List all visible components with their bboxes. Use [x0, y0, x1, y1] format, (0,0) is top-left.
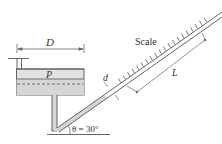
- diameter-label: D: [45, 36, 54, 48]
- tube-diameter-label: d: [103, 72, 109, 83]
- diagram-canvas: D P θ = 30° d: [0, 0, 222, 144]
- scale-label: Scale: [135, 36, 157, 47]
- angle-label: θ = 30°: [72, 124, 99, 134]
- angle-arc: [68, 125, 70, 135]
- vertical-stem: [52, 95, 57, 132]
- inclined-manometer-diagram: D P θ = 30° d: [0, 0, 222, 144]
- length-label: L: [171, 67, 178, 78]
- scale-ticks: [119, 18, 207, 83]
- pressure-label: P: [45, 69, 52, 80]
- pressure-inlet-pipe: [8, 59, 29, 70]
